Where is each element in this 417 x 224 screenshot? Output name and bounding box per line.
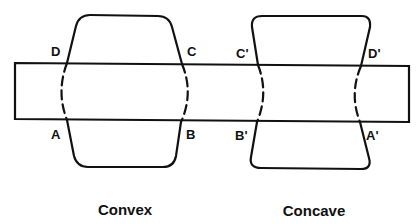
label-a: A <box>51 127 61 142</box>
label-d: D <box>51 44 60 59</box>
label-c: C <box>187 44 197 59</box>
caption-convex: Convex <box>98 201 153 218</box>
horizontal-band <box>15 63 409 122</box>
label-c-prime: C' <box>236 46 248 61</box>
label-d-prime: D' <box>368 46 380 61</box>
concave-shape <box>251 16 370 169</box>
label-a-prime: A' <box>366 128 378 143</box>
label-b-prime: B' <box>235 128 247 143</box>
label-b: B <box>186 127 195 142</box>
diagram-canvas: D C A B C' D' B' A' Convex Concave <box>0 0 417 224</box>
convex-shape <box>62 15 188 167</box>
caption-concave: Concave <box>283 202 346 219</box>
